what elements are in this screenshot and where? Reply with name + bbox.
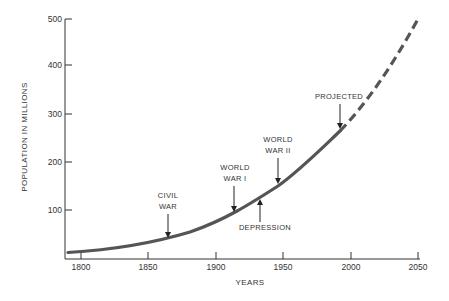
svg-text:WAR II: WAR II — [265, 146, 290, 155]
annotation-projected: PROJECTED — [315, 92, 363, 129]
y-tick-200: 200 — [48, 157, 62, 167]
svg-text:WAR I: WAR I — [224, 174, 247, 183]
annotation-civil-war: CIVIL WAR — [158, 191, 178, 238]
y-ticks — [65, 19, 72, 210]
x-axis-title: YEARS — [235, 278, 264, 287]
svg-text:WORLD: WORLD — [263, 135, 293, 144]
x-tick-2050: 2050 — [409, 262, 428, 272]
svg-text:WAR: WAR — [159, 202, 177, 211]
x-tick-2000: 2000 — [342, 262, 361, 272]
y-tick-labels: 500 400 300 200 100 — [48, 14, 62, 215]
svg-text:WORLD: WORLD — [220, 163, 250, 172]
x-tick-1850: 1850 — [139, 262, 158, 272]
y-axis-title: POPULATION IN MILLIONS — [20, 82, 29, 192]
svg-text:DEPRESSION: DEPRESSION — [239, 223, 291, 232]
population-curve-actual — [68, 131, 340, 253]
svg-text:PROJECTED: PROJECTED — [315, 92, 363, 101]
x-tick-1950: 1950 — [274, 262, 293, 272]
x-ticks — [81, 252, 418, 259]
svg-text:CIVIL: CIVIL — [158, 191, 178, 200]
y-tick-100: 100 — [48, 205, 62, 215]
y-tick-500: 500 — [48, 14, 62, 24]
population-chart: 500 400 300 200 100 1800 1850 1900 1950 … — [0, 0, 449, 301]
x-tick-1800: 1800 — [72, 262, 91, 272]
x-tick-labels: 1800 1850 1900 1950 2000 2050 — [72, 262, 428, 272]
x-tick-1900: 1900 — [207, 262, 226, 272]
y-tick-300: 300 — [48, 109, 62, 119]
y-tick-400: 400 — [48, 60, 62, 70]
population-curve-projected — [340, 19, 418, 131]
